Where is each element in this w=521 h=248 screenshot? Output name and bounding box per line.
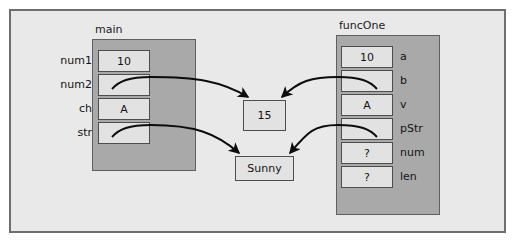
funcone-row-a-cell: 10	[341, 46, 393, 68]
heap-int-cell: 15	[243, 100, 286, 131]
heap-string-cell: Sunny	[235, 156, 294, 181]
funcone-row-v-cell: A	[341, 94, 393, 116]
funcone-row-len-label: len	[393, 171, 417, 183]
main-row-num1-cell: 10	[98, 50, 150, 72]
funcone-row-num-cell: ?	[341, 142, 393, 164]
main-row-str-label: str	[50, 127, 98, 139]
funcone-row-v-label: v	[393, 99, 407, 111]
funcone-row-v: A v	[341, 94, 407, 116]
funcone-row-len: ? len	[341, 166, 417, 188]
main-row-str: str	[50, 122, 150, 144]
main-row-ch-label: ch	[50, 103, 98, 115]
funcone-row-b-label: b	[393, 75, 407, 87]
funcone-row-a: 10 a	[341, 46, 407, 68]
main-row-ch-cell: A	[98, 98, 150, 120]
arrow-funcone-pstr-to-string	[290, 125, 338, 153]
funcone-row-num-label: num	[393, 147, 425, 159]
funcone-row-pstr-label: pStr	[393, 123, 423, 135]
funcone-row-len-cell: ?	[341, 166, 393, 188]
main-frame-title: main	[95, 24, 122, 36]
main-row-num1: num1 10	[50, 50, 150, 72]
main-row-num2: num2	[50, 74, 150, 96]
funcone-row-pstr: pStr	[341, 118, 423, 140]
funcone-row-b: b	[341, 70, 407, 92]
funcone-row-pstr-cell	[341, 118, 393, 140]
main-row-num1-label: num1	[50, 55, 98, 67]
funcone-frame-title: funcOne	[339, 20, 385, 32]
main-row-num2-cell	[98, 74, 150, 96]
funcone-row-b-cell	[341, 70, 393, 92]
main-row-ch: ch A	[50, 98, 150, 120]
arrow-funcone-b-to-int	[282, 77, 338, 97]
funcone-row-a-label: a	[393, 51, 407, 63]
main-row-str-cell	[98, 122, 150, 144]
diagram-canvas: main num1 10 num2 ch A str funcOne 10 a …	[9, 9, 506, 233]
funcone-row-num: ? num	[341, 142, 425, 164]
main-row-num2-label: num2	[50, 79, 98, 91]
